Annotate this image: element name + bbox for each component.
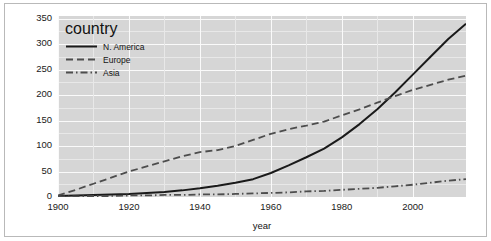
series-line-europe [58,76,466,196]
legend-label: N. America [103,42,145,52]
y-tick-label: 100 [36,140,52,150]
legend-key-swatch [65,66,98,79]
figure-frame: 050100150200250300350 190019201940196019… [4,3,487,237]
x-tick-label: 1980 [322,202,362,212]
x-tick-label: 1900 [38,202,78,212]
x-axis-label: year [58,220,466,231]
y-tick-label: 350 [36,13,52,23]
x-tick-label: 1940 [180,202,220,212]
legend-item-n-america: N. America [65,40,177,53]
y-tick-label: 300 [36,38,52,48]
chart-figure: 050100150200250300350 190019201940196019… [0,0,491,241]
y-tick-label: 150 [36,115,52,125]
legend-items: N. AmericaEuropeAsia [65,40,177,79]
legend-item-europe: Europe [65,53,177,66]
legend-label: Europe [103,55,130,65]
legend-label: Asia [103,68,120,78]
legend-title: country [65,20,177,38]
legend-key-swatch [65,53,98,66]
legend-key-swatch [65,40,98,53]
x-tick-label: 1920 [109,202,149,212]
y-tick-label: 50 [41,166,52,176]
y-tick-label: 0 [47,191,52,201]
y-tick-label: 200 [36,89,52,99]
x-tick-label: 1960 [251,202,291,212]
y-tick-label: 250 [36,64,52,74]
x-tick-label: 2000 [393,202,433,212]
legend-item-asia: Asia [65,66,177,79]
legend: country N. AmericaEuropeAsia [65,20,177,79]
